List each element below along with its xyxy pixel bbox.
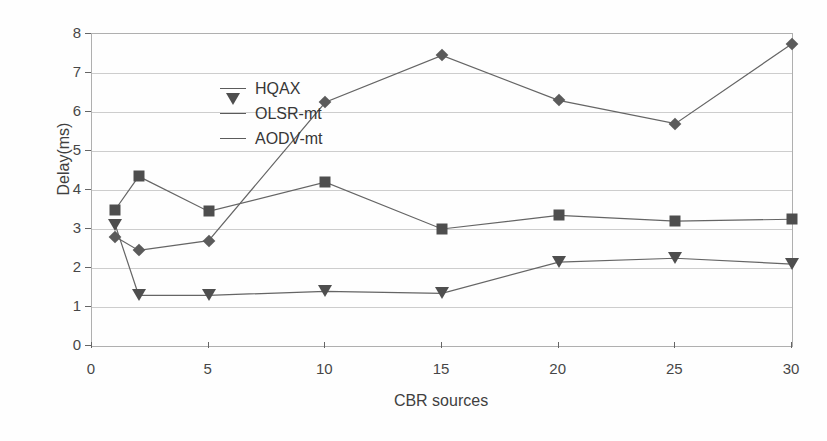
- triangle-down-marker-icon: [132, 289, 146, 301]
- triangle-down-marker-icon: [552, 256, 566, 268]
- data-point-aodv-mt: [204, 236, 213, 245]
- data-point-hqax: [320, 177, 331, 188]
- triangle-down-marker-icon: [226, 105, 240, 123]
- square-marker-icon: [787, 214, 798, 225]
- diamond-marker-icon: [132, 244, 145, 257]
- data-point-hqax: [787, 214, 798, 225]
- legend-item-hqax: HQAX: [220, 76, 370, 101]
- y-tick-label: 7: [55, 64, 81, 79]
- series-line-aodv-mt: [115, 44, 792, 251]
- x-tick-mark: [208, 342, 209, 348]
- legend-line-aodv-mt: [220, 138, 246, 139]
- square-marker-icon: [133, 171, 144, 182]
- triangle-down-marker-icon: [108, 219, 122, 231]
- y-tick-mark: [85, 306, 91, 307]
- data-point-olsr-mt: [435, 287, 449, 299]
- x-tick-label: 15: [421, 361, 461, 376]
- data-point-olsr-mt: [668, 252, 682, 264]
- data-point-olsr-mt: [552, 256, 566, 268]
- triangle-down-marker-icon: [435, 287, 449, 299]
- diamond-marker-icon: [436, 49, 449, 62]
- data-point-olsr-mt: [202, 289, 216, 301]
- x-tick-label: 20: [538, 361, 578, 376]
- data-point-hqax: [670, 216, 681, 227]
- square-marker-icon: [320, 177, 331, 188]
- square-marker-icon: [670, 216, 681, 227]
- triangle-down-marker-icon: [668, 252, 682, 264]
- y-tick-mark: [85, 33, 91, 34]
- y-tick-label: 0: [55, 337, 81, 352]
- y-tick-label: 3: [55, 220, 81, 235]
- data-point-aodv-mt: [554, 96, 563, 105]
- x-tick-mark: [674, 342, 675, 348]
- diamond-marker-icon: [669, 117, 682, 130]
- triangle-down-marker-icon: [318, 285, 332, 297]
- y-tick-label: 4: [55, 181, 81, 196]
- series-line-hqax: [115, 176, 792, 229]
- data-point-aodv-mt: [788, 39, 797, 48]
- data-point-hqax: [437, 224, 448, 235]
- legend-label-olsr-mt: OLSR-mt: [255, 105, 322, 123]
- x-tick-mark: [91, 342, 92, 348]
- square-marker-icon: [437, 224, 448, 235]
- data-point-hqax: [110, 204, 121, 215]
- square-marker-icon: [110, 204, 121, 215]
- data-point-hqax: [203, 206, 214, 217]
- data-point-hqax: [133, 171, 144, 182]
- data-point-aodv-mt: [671, 119, 680, 128]
- y-tick-mark: [85, 189, 91, 190]
- data-point-olsr-mt: [132, 289, 146, 301]
- data-point-aodv-mt: [438, 51, 447, 60]
- square-marker-icon: [553, 210, 564, 221]
- data-point-aodv-mt: [111, 232, 120, 241]
- triangle-down-marker-icon: [202, 289, 216, 301]
- legend: HQAX OLSR-mt AODV-mt: [220, 76, 370, 151]
- legend-label-aodv-mt: AODV-mt: [255, 130, 323, 148]
- y-tick-mark: [85, 267, 91, 268]
- x-axis-title: CBR sources: [91, 392, 791, 410]
- x-tick-mark: [441, 342, 442, 348]
- x-tick-label: 10: [304, 361, 344, 376]
- y-tick-label: 6: [55, 103, 81, 118]
- data-point-olsr-mt: [785, 258, 799, 270]
- x-tick-label: 0: [71, 361, 111, 376]
- square-marker-icon: [203, 206, 214, 217]
- y-tick-mark: [85, 111, 91, 112]
- x-tick-label: 30: [771, 361, 811, 376]
- legend-line-olsr-mt: [220, 113, 246, 114]
- delay-vs-cbr-sources-chart: Delay(ms) HQAX OLSR-mt: [0, 0, 827, 441]
- x-tick-mark: [324, 342, 325, 348]
- legend-item-olsr-mt: OLSR-mt: [220, 101, 370, 126]
- x-tick-mark: [558, 342, 559, 348]
- x-tick-label: 5: [188, 361, 228, 376]
- data-point-aodv-mt: [134, 246, 143, 255]
- data-point-olsr-mt: [108, 219, 122, 231]
- plot-area: HQAX OLSR-mt AODV-mt: [91, 33, 793, 347]
- diamond-marker-icon: [552, 94, 565, 107]
- legend-item-aodv-mt: AODV-mt: [220, 126, 370, 151]
- x-tick-label: 25: [654, 361, 694, 376]
- y-tick-label: 5: [55, 142, 81, 157]
- data-point-olsr-mt: [318, 285, 332, 297]
- y-tick-label: 2: [55, 259, 81, 274]
- y-tick-label: 8: [55, 25, 81, 40]
- triangle-down-marker-icon: [785, 258, 799, 270]
- y-tick-mark: [85, 150, 91, 151]
- x-tick-mark: [791, 342, 792, 348]
- y-tick-mark: [85, 228, 91, 229]
- legend-line-hqax: [220, 88, 246, 89]
- legend-label-hqax: HQAX: [255, 80, 300, 98]
- diamond-marker-icon: [202, 234, 215, 247]
- y-tick-mark: [85, 72, 91, 73]
- series-line-olsr-mt: [115, 225, 792, 295]
- diamond-marker-icon: [109, 230, 122, 243]
- diamond-marker-icon: [786, 37, 799, 50]
- y-tick-label: 1: [55, 298, 81, 313]
- data-point-hqax: [553, 210, 564, 221]
